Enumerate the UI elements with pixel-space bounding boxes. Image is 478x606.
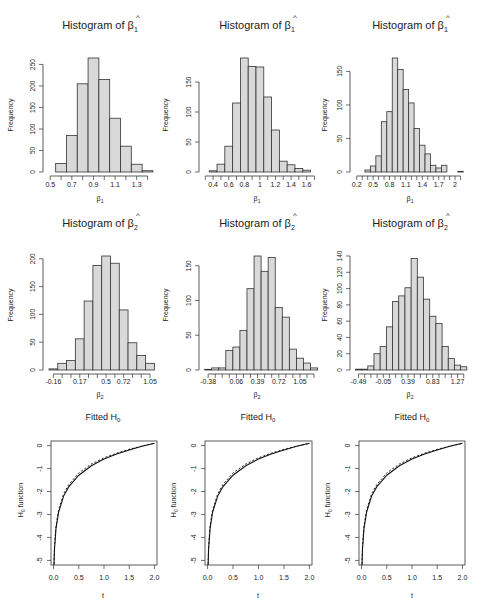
histogram-bar bbox=[93, 265, 102, 370]
x-tick-label: 1.5 bbox=[432, 574, 442, 581]
histogram-bar bbox=[226, 351, 233, 370]
y-tick-label: 100 bbox=[29, 309, 36, 320]
histogram-bar bbox=[272, 130, 280, 172]
histogram-bar bbox=[233, 103, 241, 172]
y-tick-label: 150 bbox=[29, 281, 36, 292]
histogram-bar bbox=[303, 363, 310, 370]
curve-true bbox=[208, 443, 309, 564]
y-tick-label: 150 bbox=[29, 102, 36, 113]
histogram-bar bbox=[264, 97, 272, 172]
y-tick-label: 100 bbox=[29, 123, 36, 134]
y-tick-label: 100 bbox=[185, 295, 192, 306]
histogram-bar bbox=[376, 156, 381, 172]
y-tick-label: 50 bbox=[29, 338, 36, 346]
histogram-bar bbox=[442, 346, 448, 370]
x-tick-label: 0.5 bbox=[228, 574, 238, 581]
y-tick-label: -5 bbox=[36, 557, 43, 563]
x-axis-label: β1 bbox=[254, 195, 261, 204]
y-tick-label: -1 bbox=[36, 465, 43, 471]
histogram-bar bbox=[240, 330, 247, 370]
curve-true bbox=[54, 443, 155, 564]
x-tick-label: 0.0 bbox=[357, 574, 367, 581]
histogram-bar bbox=[240, 58, 248, 172]
chart-panel-row3-col1: Fitted H0H0 functiont0.00.51.01.52.00-1-… bbox=[17, 412, 159, 599]
x-tick-label: 1.6 bbox=[302, 181, 312, 188]
histogram-bar bbox=[77, 84, 88, 172]
chart-panel-row1-col2: Histogram of β1^Frequencyβ10.40.60.811.2… bbox=[162, 13, 314, 204]
histogram-bar bbox=[209, 171, 217, 172]
histogram-bar bbox=[289, 349, 296, 370]
y-axis-label: Frequency bbox=[162, 288, 170, 322]
chart-panel-row1-col3: Histogram of β1^Frequencyβ10.20.50.81.11… bbox=[321, 13, 463, 204]
histogram-bar bbox=[414, 128, 419, 172]
x-tick-label: 0.72 bbox=[117, 378, 131, 385]
x-axis-label: β1 bbox=[407, 195, 414, 204]
x-axis-label: t bbox=[102, 592, 104, 599]
y-tick-label: -5 bbox=[190, 557, 197, 563]
y-axis-label: Frequency bbox=[162, 98, 170, 132]
chart-title: Fitted H0 bbox=[395, 412, 431, 423]
y-axis-label: Frequency bbox=[7, 98, 15, 132]
histogram-bar bbox=[279, 161, 287, 172]
chart-panel-row2-col1: Histogram of β2^Frequencyβ2-0.160.170.50… bbox=[7, 211, 157, 400]
histogram-bar bbox=[110, 263, 119, 370]
hat-glyph: ^ bbox=[446, 211, 450, 220]
histogram-bar bbox=[56, 163, 67, 172]
histogram-bar bbox=[110, 118, 121, 172]
hat-glyph: ^ bbox=[293, 211, 297, 220]
histogram-bar bbox=[102, 256, 111, 370]
y-tick-label: 80 bbox=[336, 301, 343, 309]
histogram-bar bbox=[370, 166, 375, 172]
chart-title: Histogram of β1 bbox=[372, 19, 448, 33]
histogram-bar bbox=[75, 339, 84, 370]
hat-glyph: ^ bbox=[446, 13, 450, 22]
x-tick-label: 0.9 bbox=[89, 181, 99, 188]
y-axis-label: Frequency bbox=[321, 288, 329, 322]
y-tick-label: -1 bbox=[344, 465, 351, 471]
x-tick-label: -0.05 bbox=[375, 378, 391, 385]
histogram-bar bbox=[268, 257, 275, 370]
x-tick-label: 2.0 bbox=[458, 574, 468, 581]
y-tick-label: 60 bbox=[336, 317, 343, 325]
histogram-bar bbox=[296, 358, 303, 370]
y-tick-label: -3 bbox=[36, 511, 43, 517]
histogram-bar bbox=[398, 69, 403, 172]
histogram-bar bbox=[217, 164, 225, 172]
histogram-bar bbox=[131, 164, 142, 172]
chart-panel-row2-col3: Histogram of β2^Frequencyβ2-0.49-0.050.3… bbox=[321, 211, 467, 400]
curve-fitted bbox=[362, 443, 463, 565]
x-tick-label: 1.5 bbox=[124, 574, 134, 581]
hat-glyph: ^ bbox=[136, 211, 140, 220]
y-tick-label: 20 bbox=[336, 350, 343, 358]
chart-title: Histogram of β1 bbox=[62, 19, 138, 33]
x-axis-label: β1 bbox=[97, 195, 104, 204]
chart-panel-row3-col3: Fitted H0H0 functiont0.00.51.01.52.00-1-… bbox=[324, 412, 467, 599]
histogram-bar bbox=[374, 354, 380, 370]
histogram-bar bbox=[233, 347, 240, 370]
histogram-bar bbox=[399, 296, 405, 370]
histogram-bar bbox=[380, 346, 386, 370]
y-tick-label: -4 bbox=[36, 534, 43, 540]
x-tick-label: 2 bbox=[453, 181, 457, 188]
y-tick-label: 140 bbox=[336, 250, 343, 261]
y-tick-label: 150 bbox=[336, 66, 343, 77]
x-tick-label: -0.38 bbox=[200, 378, 216, 385]
y-axis-label: Frequency bbox=[7, 288, 15, 322]
y-tick-label: 120 bbox=[336, 266, 343, 277]
x-tick-label: 1.0 bbox=[254, 574, 264, 581]
histogram-bar bbox=[120, 146, 131, 172]
x-tick-label: 0.8 bbox=[239, 181, 249, 188]
histogram-bar bbox=[248, 66, 256, 172]
histogram-bar bbox=[448, 359, 454, 370]
curve-fitted bbox=[54, 443, 155, 565]
histogram-bar bbox=[362, 369, 368, 370]
histogram-bar bbox=[436, 324, 442, 370]
histogram-bar bbox=[436, 168, 441, 172]
histogram-bar bbox=[254, 256, 261, 370]
x-tick-label: 0.39 bbox=[251, 378, 265, 385]
y-tick-label: -4 bbox=[190, 534, 197, 540]
x-tick-label: 1 bbox=[258, 181, 262, 188]
histogram-bar bbox=[282, 317, 289, 370]
histogram-bar bbox=[205, 369, 212, 370]
histogram-bar bbox=[424, 299, 430, 370]
